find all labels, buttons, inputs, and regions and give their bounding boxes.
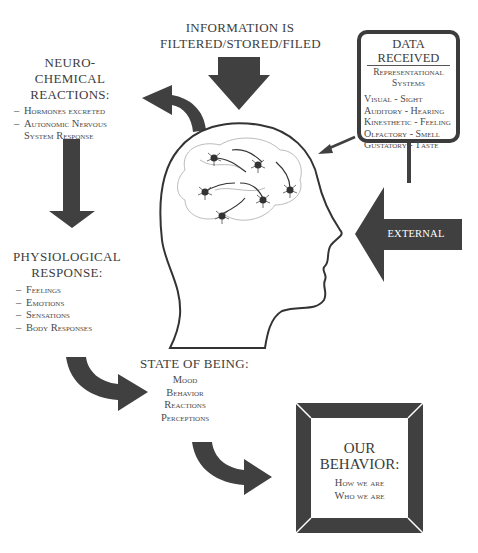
neuro-chemical-section: NEURO-CHEMICAL REACTIONS: –Hormones excr…: [10, 55, 130, 143]
curved-arrow-icon: [142, 85, 206, 132]
state-item: Perceptions: [150, 412, 220, 425]
behavior-title-line1: OUR: [311, 440, 408, 456]
down-arrow-icon: [208, 57, 270, 110]
pointer-arrow-icon: [318, 137, 355, 154]
state-item: Reactions: [150, 399, 220, 412]
curved-arrow-icon: [192, 442, 272, 495]
state-item: Mood: [150, 374, 220, 387]
sense-item: Gustatory - Taste: [364, 139, 456, 151]
external-event-label: EXTERNAL EVENT: [370, 222, 462, 246]
neuro-item: –Hormones excreted: [14, 105, 130, 118]
sense-item: Olfactory - Smell: [364, 128, 456, 140]
state-of-being-section: STATE OF BEING: Mood Behavior Reactions …: [140, 356, 250, 424]
physiological-title: PHYSIOLOGICAL RESPONSE:: [12, 249, 122, 281]
neuro-title-line1: NEURO-CHEMICAL: [10, 55, 130, 87]
our-behavior-section: OUR BEHAVIOR: How we are Who we are: [311, 440, 408, 502]
info-label-line2: FILTERED/STORED/FILED: [160, 36, 320, 52]
state-of-being-title: STATE OF BEING:: [140, 356, 250, 372]
data-subtitle-line1: Representational: [361, 67, 456, 78]
state-item: Behavior: [150, 387, 220, 400]
head-silhouette-icon: [160, 123, 341, 348]
phys-item: Body Responses: [16, 322, 122, 335]
down-arrow-icon: [49, 139, 95, 228]
phys-title-line1: PHYSIOLOGICAL: [12, 249, 122, 265]
info-filtered-label: INFORMATION IS FILTERED/STORED/FILED: [160, 20, 320, 52]
behavior-title-line2: BEHAVIOR:: [311, 456, 408, 472]
sense-item: Kinesthetic - Feeling: [364, 116, 456, 128]
info-label-line1: INFORMATION IS: [160, 20, 320, 36]
data-received-title: DATA RECEIVED: [367, 37, 450, 66]
phys-item: Feelings: [16, 284, 122, 297]
physiological-section: PHYSIOLOGICAL RESPONSE: Feelings Emotion…: [12, 249, 122, 334]
sense-item: Visual - Sight: [364, 93, 456, 105]
phys-item: Sensations: [16, 309, 122, 322]
curved-arrow-icon: [66, 357, 148, 411]
neuro-item-text: Autonomic Nervous: [24, 118, 107, 129]
our-behavior-title: OUR BEHAVIOR:: [311, 440, 408, 472]
neuro-item-text: System Response: [24, 130, 94, 141]
phys-item: Emotions: [16, 297, 122, 310]
neuro-item: System Response: [14, 130, 130, 143]
data-received-box: DATA RECEIVED Representational Systems V…: [357, 30, 460, 143]
behavior-item: How we are: [311, 477, 408, 490]
neuro-title-line2: REACTIONS:: [10, 87, 130, 103]
sense-item: Auditory - Hearing: [364, 105, 456, 117]
neuro-item-text: Hormones excreted: [24, 105, 105, 116]
data-subtitle-line2: Systems: [361, 78, 456, 89]
neuro-item: –Autonomic Nervous: [14, 118, 130, 131]
behavior-item: Who we are: [311, 490, 408, 503]
phys-title-line2: RESPONSE:: [12, 265, 122, 281]
neuro-chemical-title: NEURO-CHEMICAL REACTIONS:: [10, 55, 130, 103]
